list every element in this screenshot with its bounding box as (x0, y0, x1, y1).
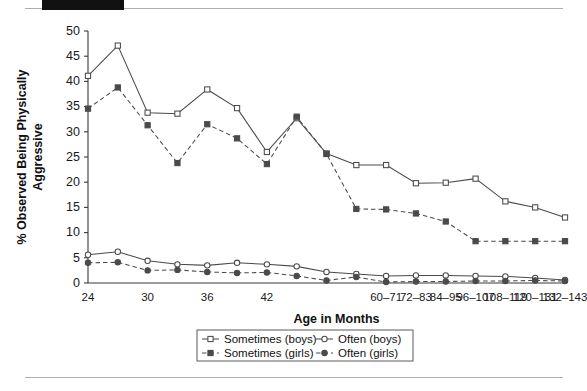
legend-marker (322, 350, 327, 355)
y-tick-label: 10 (66, 225, 80, 239)
data-point (443, 273, 448, 278)
data-point (205, 87, 210, 92)
data-point (473, 176, 478, 181)
y-tick-label: 5 (73, 251, 80, 265)
black-header-bar (42, 0, 124, 10)
data-point (145, 110, 150, 115)
data-point (473, 278, 478, 283)
data-point (115, 43, 120, 48)
data-point (533, 205, 538, 210)
y-tick-label: 25 (66, 150, 80, 164)
data-point (264, 149, 269, 154)
data-point (473, 239, 478, 244)
figure-container: 05101520253035404550% Observed Being Phy… (0, 0, 587, 391)
data-point (294, 264, 299, 269)
data-point (384, 162, 389, 167)
y-tick-label: 50 (66, 24, 80, 38)
series-1 (85, 43, 567, 220)
data-point (85, 73, 90, 78)
data-point (264, 270, 269, 275)
data-point (294, 273, 299, 278)
data-point (175, 267, 180, 272)
y-tick-label: 40 (66, 74, 80, 88)
y-tick-label: 35 (66, 99, 80, 113)
legend: Sometimes (boys)Often (boys)Sometimes (g… (197, 330, 413, 361)
data-point (234, 106, 239, 111)
data-point (205, 269, 210, 274)
data-point (443, 219, 448, 224)
data-point (85, 252, 90, 257)
data-point (443, 180, 448, 185)
data-point (234, 260, 239, 265)
series-2 (85, 85, 567, 244)
x-tick-label: 24 (82, 291, 95, 303)
legend-label: Often (boys) (338, 333, 401, 345)
data-point (234, 270, 239, 275)
data-point (562, 239, 567, 244)
data-point (503, 278, 508, 283)
bottom-rule (25, 377, 563, 378)
y-tick-label: 45 (66, 49, 80, 63)
y-axis-title-line: Aggressive (31, 123, 45, 190)
data-point (413, 279, 418, 284)
x-tick-label: 72–83 (400, 291, 432, 303)
data-point (324, 151, 329, 156)
series-line (88, 46, 565, 218)
x-tick-label: 132–143 (543, 291, 587, 303)
data-point (264, 262, 269, 267)
legend-marker (208, 350, 213, 355)
data-point (264, 161, 269, 166)
data-point (413, 273, 418, 278)
y-tick-label: 30 (66, 125, 80, 139)
data-point (384, 207, 389, 212)
data-point (533, 239, 538, 244)
data-point (145, 258, 150, 263)
data-point (383, 273, 388, 278)
x-tick-label: 30 (141, 291, 154, 303)
data-point (85, 260, 90, 265)
x-tick-label: 42 (260, 291, 273, 303)
data-point (562, 215, 567, 220)
data-point (354, 206, 359, 211)
data-point (115, 85, 120, 90)
x-tick-label: 60–71 (370, 291, 402, 303)
y-axis-title-line: % Observed Being Physically (15, 69, 29, 244)
data-point (145, 123, 150, 128)
data-point (354, 274, 359, 279)
data-point (175, 160, 180, 165)
data-point (145, 268, 150, 273)
y-tick-label: 0 (73, 276, 80, 290)
x-axis-title: Age in Months (293, 312, 379, 326)
data-point (354, 162, 359, 167)
legend-marker (322, 336, 327, 341)
data-point (234, 136, 239, 141)
legend-label: Sometimes (boys) (224, 333, 317, 345)
data-point (85, 106, 90, 111)
series-line (88, 252, 565, 280)
data-point (562, 278, 567, 283)
data-point (324, 269, 329, 274)
data-point (175, 262, 180, 267)
line-chart: 05101520253035404550% Observed Being Phy… (0, 0, 587, 391)
legend-label: Sometimes (girls) (224, 347, 314, 359)
data-point (205, 263, 210, 268)
legend-marker (208, 336, 213, 341)
data-point (383, 279, 388, 284)
y-tick-label: 20 (66, 175, 80, 189)
legend-label: Often (girls) (338, 347, 398, 359)
y-tick-label: 15 (66, 200, 80, 214)
data-point (413, 211, 418, 216)
data-point (115, 249, 120, 254)
data-point (294, 114, 299, 119)
x-tick-label: 36 (201, 291, 214, 303)
data-point (503, 199, 508, 204)
data-point (443, 279, 448, 284)
data-point (324, 278, 329, 283)
data-point (205, 122, 210, 127)
data-point (175, 111, 180, 116)
series-line (88, 87, 565, 241)
data-point (413, 181, 418, 186)
data-point (115, 260, 120, 265)
data-point (503, 239, 508, 244)
data-point (532, 278, 537, 283)
